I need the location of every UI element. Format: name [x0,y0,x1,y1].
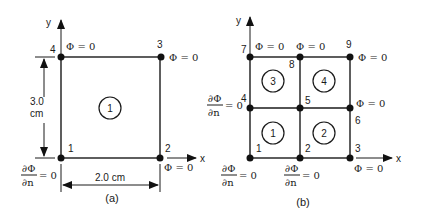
svg-text:∂n: ∂n [285,177,297,188]
element-number: 1 [107,103,113,114]
figure-b: y x 1 2 3 4 1 2 3 4 5 6 7 8 9 [207,15,401,208]
node-3 [158,54,165,61]
node-4-label: 4 [50,44,56,55]
element-1-number: 1 [270,128,276,139]
svg-text:∂n: ∂n [208,107,220,118]
node-1-label: 1 [68,143,74,154]
node-7-label: 7 [241,44,247,55]
node-7 [247,54,254,61]
bc-node-4: Φ = 0 [66,41,95,52]
height-unit: cm [30,108,43,119]
bc-node-2: Φ = 0 [164,162,193,173]
bc-node-6: Φ = 0 [356,98,385,109]
node-1 [58,155,65,162]
caption-b: (b) [296,196,309,208]
node-2 [157,155,164,162]
width-dimension: 2.0 cm [61,164,160,192]
y-axis-label: y [236,15,241,26]
node-8 [297,54,304,61]
y-axis-label: y [46,17,51,28]
node-4 [58,54,65,61]
figure-a: y x 1 1 2 3 4 Φ = 0 Φ = 0 Φ = 0 ∂Φ ∂n = … [21,17,205,204]
flux-numerator: ∂Φ [22,163,35,174]
node-9-label: 9 [346,39,352,50]
bc-node-1-flux: ∂Φ ∂n = 0 [221,163,257,188]
node-3-label: 3 [355,143,361,154]
node-2-label: 2 [305,143,311,154]
element-3-number: 3 [270,76,276,87]
node-5-label: 5 [305,95,311,106]
svg-text:∂Φ: ∂Φ [222,163,235,174]
node-9 [347,54,354,61]
bc-node-1-flux: ∂Φ ∂n = 0 [21,163,57,188]
node-8-label: 8 [289,59,295,70]
node-1-label: 1 [256,143,262,154]
height-dimension: 3.0 cm [26,57,56,158]
element-2-number: 2 [321,128,327,139]
bc-node-8: Φ = 0 [296,41,325,52]
node-6 [347,105,354,112]
flux-denominator: ∂n [22,177,34,188]
bc-node-7: Φ = 0 [255,41,284,52]
node-5 [297,105,304,112]
node-3 [347,155,354,162]
caption-a: (a) [105,192,118,204]
node-2 [297,155,304,162]
height-value: 3.0 [30,96,44,107]
bc-node-2-flux: ∂Φ ∂n = 0 [284,163,320,188]
bc-node-9: Φ = 0 [358,52,387,63]
svg-text:= 0: = 0 [302,170,320,181]
fem-mesh-diagram: y x 1 1 2 3 4 Φ = 0 Φ = 0 Φ = 0 ∂Φ ∂n = … [0,0,424,221]
svg-text:∂Φ: ∂Φ [208,93,221,104]
svg-text:= 0: = 0 [225,100,243,111]
bc-node-3: Φ = 0 [169,52,198,63]
svg-text:∂n: ∂n [222,177,234,188]
element-4-number: 4 [321,76,327,87]
width-value: 2.0 cm [95,172,125,183]
node-3-label: 3 [157,39,163,50]
svg-text:= 0: = 0 [239,170,257,181]
svg-text:∂Φ: ∂Φ [285,163,298,174]
x-axis-label: x [396,153,401,164]
node-1 [247,155,254,162]
flux-equals: = 0 [39,170,57,181]
node-6-label: 6 [355,115,361,126]
bc-node-3: Φ = 0 [354,163,383,174]
node-4 [247,105,254,112]
node-2-label: 2 [165,143,171,154]
x-axis-label: x [200,153,205,164]
bc-left-edge-flux: ∂Φ ∂n = 0 [207,93,243,118]
